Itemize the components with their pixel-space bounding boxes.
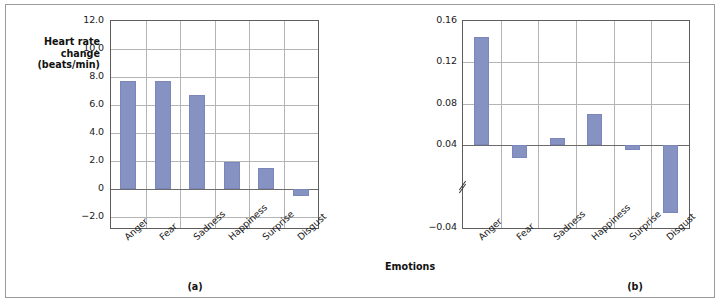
y-tick-label: 0.12	[436, 55, 457, 66]
bar	[663, 145, 678, 213]
bar	[512, 145, 527, 157]
bar	[587, 114, 602, 145]
y-tick-label: −2.0	[81, 210, 104, 221]
y-tick-label: 6.0	[89, 98, 104, 109]
gridline-vertical	[576, 21, 577, 228]
gridline-vertical	[538, 21, 539, 228]
y-tick-labels-b: 0.160.120.080.04−0.04	[413, 20, 457, 229]
bar	[625, 145, 640, 150]
bar	[224, 162, 240, 189]
bar	[293, 189, 309, 196]
bar	[189, 95, 205, 189]
x-axis-title: Emotions	[385, 261, 435, 272]
gridline-vertical	[180, 21, 181, 228]
y-tick-label: −0.04	[428, 221, 457, 232]
panel-caption-b: (b)	[615, 281, 655, 292]
panel-a: Heart ratechange(beats/min) 12.010.08.06…	[0, 0, 361, 306]
y-tick-label: 0.16	[436, 14, 457, 25]
bar	[474, 37, 489, 146]
panel-caption-a: (a)	[175, 281, 215, 292]
gridline-vertical	[249, 21, 250, 228]
gridline-vertical	[651, 21, 652, 228]
bar	[155, 81, 171, 189]
y-axis-break-icon	[457, 181, 468, 192]
y-tick-label: 8.0	[89, 70, 104, 81]
y-tick-label: 4.0	[89, 126, 104, 137]
y-tick-label: 0.04	[436, 138, 457, 149]
y-tick-label: 0	[98, 182, 104, 193]
baseline	[463, 145, 689, 146]
gridline-vertical	[501, 21, 502, 228]
y-tick-labels-a: 12.010.08.06.04.02.00−2.0	[60, 20, 104, 229]
figure-canvas: Heart ratechange(beats/min) 12.010.08.06…	[0, 0, 722, 306]
gridline-vertical	[215, 21, 216, 228]
baseline	[111, 189, 318, 190]
plot-area-a	[110, 20, 319, 229]
bar	[550, 138, 565, 145]
y-tick-label: 10.0	[83, 42, 104, 53]
y-tick-label: 0.08	[436, 97, 457, 108]
y-tick-label: 2.0	[89, 154, 104, 165]
gridline-vertical	[614, 21, 615, 228]
gridline-vertical	[146, 21, 147, 228]
plot-area-b	[462, 20, 690, 229]
bar	[258, 168, 274, 189]
y-tick-label: 12.0	[83, 14, 104, 25]
bar	[120, 81, 136, 189]
gridline-vertical	[284, 21, 285, 228]
